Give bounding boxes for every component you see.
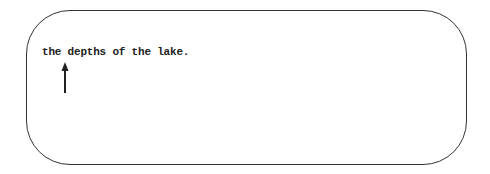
rounded-screen-frame: [26, 10, 467, 165]
text-line: the depths of the lake.: [42, 46, 189, 58]
up-arrow-icon: [59, 62, 71, 94]
